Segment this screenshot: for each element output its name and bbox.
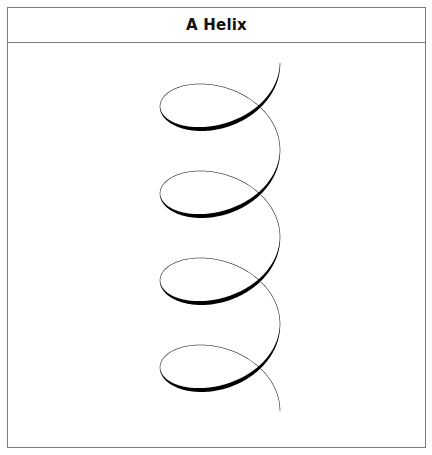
plot-area [8, 42, 425, 447]
helix-curve [160, 63, 281, 411]
figure-frame: A Helix [7, 7, 426, 448]
helix-drawing [0, 0, 432, 455]
